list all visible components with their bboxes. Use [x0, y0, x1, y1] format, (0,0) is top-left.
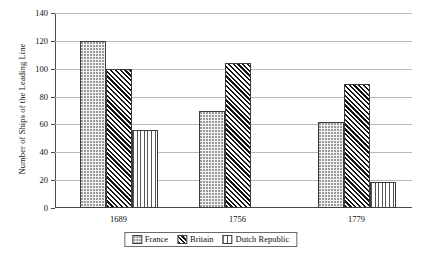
y-tick-label: 80 — [40, 92, 49, 102]
bar-chart: Number of Ships of the Leading Line 0204… — [0, 0, 421, 262]
legend-item-britain[interactable]: Britain — [177, 235, 214, 244]
bar-britain-1689 — [106, 69, 132, 208]
y-tick-mark — [51, 69, 55, 70]
legend-label-dutch-republic: Dutch Republic — [236, 235, 290, 244]
y-axis-title: Number of Ships of the Leading Line — [17, 9, 27, 209]
bar-britain-1779 — [344, 84, 370, 208]
y-tick-mark — [51, 13, 55, 14]
gridline — [55, 13, 412, 14]
bar-france-1779 — [318, 122, 344, 208]
legend-swatch-france-icon — [132, 235, 142, 244]
legend-swatch-dutch-republic-icon — [223, 235, 233, 244]
bar-france-1689 — [80, 41, 106, 208]
bar-britain-1756 — [225, 63, 251, 208]
y-tick-mark — [51, 152, 55, 153]
y-tick-mark — [51, 41, 55, 42]
legend-swatch-britain-icon — [177, 235, 187, 244]
y-tick-label: 100 — [35, 64, 48, 74]
legend-item-france[interactable]: France — [132, 235, 168, 244]
y-tick-label: 140 — [35, 8, 48, 18]
bar-dutch-republic-1689 — [132, 130, 158, 208]
y-axis-line — [55, 13, 56, 208]
x-tick-label-1779: 1779 — [348, 214, 365, 224]
bar-dutch-republic-1779 — [370, 182, 396, 208]
legend-label-britain: Britain — [190, 235, 214, 244]
y-tick-mark — [51, 180, 55, 181]
y-tick-mark — [51, 97, 55, 98]
chart-legend: France Britain Dutch Republic — [124, 232, 297, 247]
plot-area: 020406080100120140 168917561779 — [55, 13, 412, 208]
x-tick-label-1689: 1689 — [110, 214, 127, 224]
y-tick-label: 40 — [40, 147, 49, 157]
gridline — [55, 41, 412, 42]
y-tick-label: 120 — [35, 36, 48, 46]
bar-france-1756 — [199, 111, 225, 209]
y-tick-label: 60 — [40, 119, 49, 129]
x-tick-label-1756: 1756 — [229, 214, 246, 224]
y-tick-mark — [51, 124, 55, 125]
legend-label-france: France — [145, 235, 168, 244]
legend-item-dutch-republic[interactable]: Dutch Republic — [223, 235, 290, 244]
y-tick-label: 20 — [40, 175, 49, 185]
y-tick-label: 0 — [44, 203, 48, 213]
y-tick-mark — [51, 208, 55, 209]
